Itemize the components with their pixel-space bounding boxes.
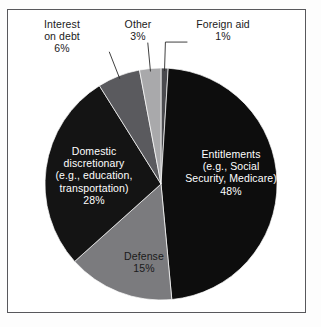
leader-line-interest-on-debt [109, 52, 120, 79]
slice-label-defense: Defense 15% [112, 250, 176, 274]
leader-line-foreign-aid [165, 42, 166, 71]
slice-label-domestic-discretionary: Domestic discretionary (e.g., education,… [38, 145, 150, 206]
chart-figure: Interest on debt 6% Other 3% Foreign aid… [0, 0, 321, 327]
slice-label-entitlements: Entitlements (e.g., Social Security, Med… [172, 148, 290, 197]
slice-label-interest-on-debt: Interest on debt 6% [24, 18, 100, 55]
leader-line-other [148, 43, 151, 72]
slice-label-foreign-aid: Foreign aid 1% [180, 18, 266, 42]
slice-label-other: Other 3% [112, 18, 164, 42]
